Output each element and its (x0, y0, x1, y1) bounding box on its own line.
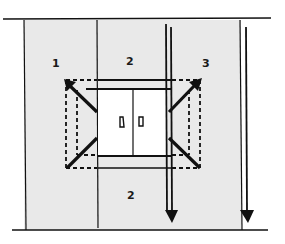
plumb-line-right (246, 27, 247, 212)
plumb-line-a (166, 24, 167, 212)
zone-label-2-top: 2 (126, 56, 134, 67)
zone-label-3: 3 (202, 58, 210, 69)
diagram-canvas: 1 2 3 2 (0, 0, 285, 244)
zone-label-1: 1 (52, 58, 60, 69)
window-swing-diagram (0, 0, 285, 244)
plumb-line-b (171, 27, 172, 212)
top-line (3, 18, 271, 19)
zone-label-2-bottom: 2 (127, 190, 135, 201)
